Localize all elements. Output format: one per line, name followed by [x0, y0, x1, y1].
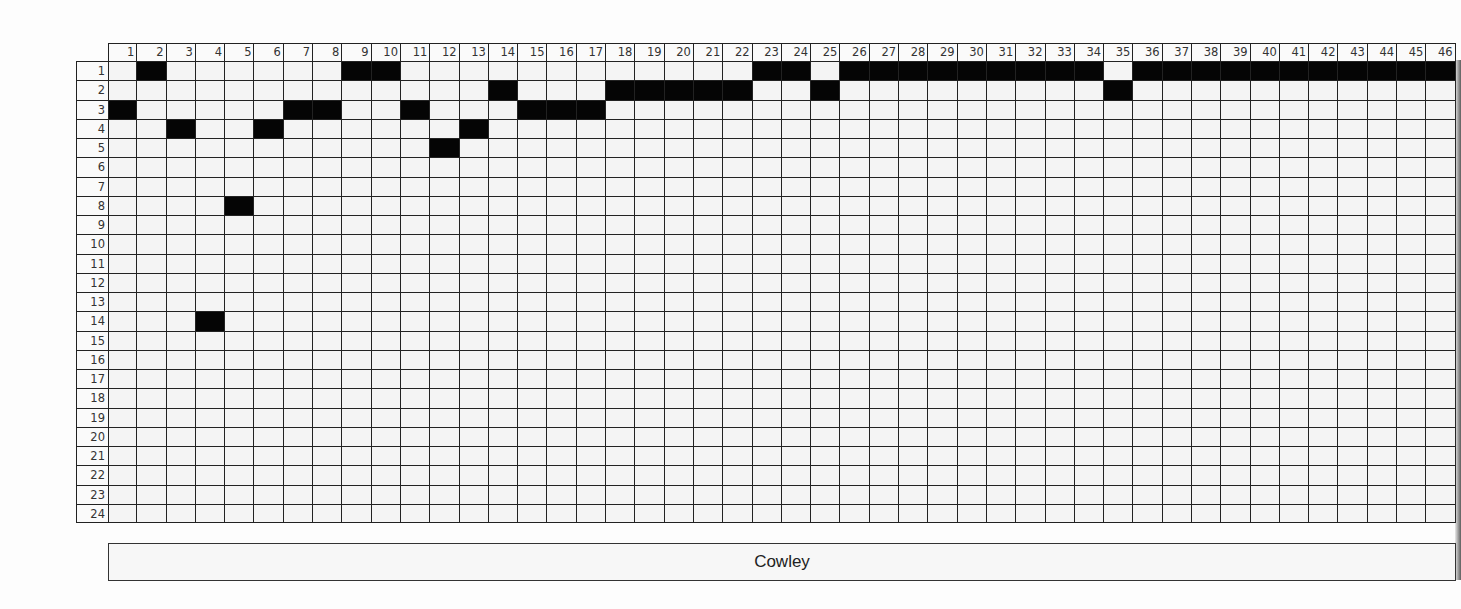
grid-cell[interactable] [1104, 369, 1133, 388]
grid-cell[interactable] [1280, 331, 1309, 350]
grid-cell[interactable] [1338, 485, 1367, 504]
grid-cell[interactable] [1251, 427, 1280, 446]
grid-cell[interactable] [782, 504, 811, 523]
grid-cell[interactable] [313, 369, 342, 388]
grid-cell[interactable] [723, 369, 752, 388]
grid-cell[interactable] [547, 369, 576, 388]
grid-cell[interactable] [225, 292, 254, 311]
grid-cell[interactable] [811, 388, 840, 407]
grid-cell[interactable] [284, 80, 313, 99]
grid-cell[interactable] [1368, 408, 1397, 427]
grid-cell[interactable] [284, 427, 313, 446]
grid-cell[interactable] [606, 292, 635, 311]
grid-cell[interactable] [928, 234, 957, 253]
grid-cell[interactable] [723, 119, 752, 138]
grid-cell[interactable] [1016, 292, 1045, 311]
grid-cell[interactable] [1046, 331, 1075, 350]
grid-cell[interactable] [1397, 350, 1426, 369]
grid-cell[interactable] [1221, 408, 1250, 427]
grid-cell[interactable] [1163, 234, 1192, 253]
grid-cell[interactable] [782, 311, 811, 330]
grid-cell[interactable] [958, 138, 987, 157]
grid-cell[interactable] [196, 80, 225, 99]
grid-cell[interactable] [635, 273, 664, 292]
grid-cell[interactable] [753, 177, 782, 196]
grid-cell[interactable] [811, 465, 840, 484]
grid-cell[interactable] [225, 215, 254, 234]
grid-cell[interactable] [1309, 196, 1338, 215]
grid-cell[interactable] [987, 311, 1016, 330]
grid-cell[interactable] [1133, 388, 1162, 407]
grid-cell[interactable] [518, 408, 547, 427]
grid-cell[interactable] [870, 369, 899, 388]
grid-cell[interactable] [1075, 465, 1104, 484]
grid-cell[interactable] [1280, 485, 1309, 504]
grid-cell[interactable] [694, 273, 723, 292]
grid-cell[interactable] [1016, 215, 1045, 234]
grid-cell[interactable] [1192, 254, 1221, 273]
grid-cell[interactable] [1163, 292, 1192, 311]
grid-cell[interactable] [1016, 311, 1045, 330]
grid-cell[interactable] [928, 80, 957, 99]
grid-cell[interactable] [1309, 388, 1338, 407]
grid-cell[interactable] [430, 215, 459, 234]
grid-cell[interactable] [1426, 446, 1455, 465]
grid-cell[interactable] [1192, 331, 1221, 350]
grid-cell[interactable] [401, 234, 430, 253]
grid-cell[interactable] [811, 408, 840, 427]
grid-cell[interactable] [1016, 465, 1045, 484]
grid-cell[interactable] [108, 369, 137, 388]
grid-cell[interactable] [782, 331, 811, 350]
grid-cell[interactable] [782, 234, 811, 253]
grid-cell[interactable] [782, 350, 811, 369]
grid-cell[interactable] [635, 485, 664, 504]
grid-cell[interactable] [196, 504, 225, 523]
grid-cell[interactable] [753, 504, 782, 523]
grid-cell[interactable] [108, 157, 137, 176]
grid-cell[interactable] [137, 446, 166, 465]
grid-cell[interactable] [1016, 254, 1045, 273]
grid-cell[interactable] [372, 388, 401, 407]
grid-cell[interactable] [1309, 311, 1338, 330]
grid-cell[interactable] [899, 254, 928, 273]
grid-cell[interactable] [987, 80, 1016, 99]
grid-cell[interactable] [313, 465, 342, 484]
grid-cell[interactable] [1397, 100, 1426, 119]
grid-cell[interactable] [372, 465, 401, 484]
grid-cell[interactable] [840, 465, 869, 484]
grid-cell[interactable] [606, 196, 635, 215]
grid-cell[interactable] [753, 234, 782, 253]
grid-cell[interactable] [1251, 234, 1280, 253]
grid-cell[interactable] [1397, 427, 1426, 446]
grid-cell[interactable] [167, 292, 196, 311]
grid-cell[interactable] [313, 388, 342, 407]
grid-cell[interactable] [958, 273, 987, 292]
grid-cell[interactable] [547, 157, 576, 176]
grid-cell[interactable] [313, 80, 342, 99]
grid-cell[interactable] [108, 331, 137, 350]
grid-cell[interactable] [987, 465, 1016, 484]
grid-cell[interactable] [753, 138, 782, 157]
grid-cell-filled[interactable] [1104, 80, 1133, 99]
grid-cell[interactable] [870, 350, 899, 369]
grid-cell[interactable] [1309, 485, 1338, 504]
grid-cell[interactable] [167, 350, 196, 369]
grid-cell[interactable] [987, 408, 1016, 427]
grid-cell[interactable] [1133, 465, 1162, 484]
grid-cell[interactable] [577, 427, 606, 446]
grid-cell[interactable] [1046, 273, 1075, 292]
grid-cell[interactable] [196, 273, 225, 292]
grid-cell-filled[interactable] [987, 61, 1016, 80]
grid-cell-filled[interactable] [518, 100, 547, 119]
grid-cell[interactable] [1397, 177, 1426, 196]
grid-cell-filled[interactable] [1192, 61, 1221, 80]
grid-cell[interactable] [606, 100, 635, 119]
grid-cell[interactable] [489, 446, 518, 465]
grid-cell[interactable] [1016, 485, 1045, 504]
grid-cell[interactable] [1338, 254, 1367, 273]
grid-cell[interactable] [782, 138, 811, 157]
grid-cell[interactable] [1104, 388, 1133, 407]
grid-cell[interactable] [694, 485, 723, 504]
grid-cell[interactable] [547, 215, 576, 234]
grid-cell[interactable] [518, 157, 547, 176]
